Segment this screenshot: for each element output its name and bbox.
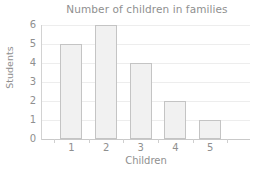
y-axis-tick-label: 1 — [10, 115, 36, 125]
bar — [130, 63, 152, 139]
chart-title: Number of children in families — [42, 3, 252, 15]
x-axis-tick-label: 2 — [94, 142, 118, 154]
x-axis-tick-mark — [227, 139, 228, 143]
x-axis-tick-mark — [158, 139, 159, 143]
x-axis-tick-mark — [54, 139, 55, 143]
x-axis-tick-label: 5 — [198, 142, 222, 154]
y-axis-tick-label: 5 — [10, 39, 36, 49]
y-axis-tick-label: 2 — [10, 96, 36, 106]
gridline — [42, 25, 250, 26]
bar — [95, 25, 117, 139]
y-axis-tick-label: 6 — [10, 20, 36, 30]
bar — [60, 44, 82, 139]
bar — [199, 120, 221, 139]
y-axis-tick-label: 3 — [10, 77, 36, 87]
bar — [164, 101, 186, 139]
x-axis-tick-mark — [123, 139, 124, 143]
x-axis-tick-label: 4 — [163, 142, 187, 154]
bar-chart: Number of children in families Students … — [0, 0, 260, 173]
y-axis-tick-label: 0 — [10, 134, 36, 144]
y-axis-line — [41, 25, 42, 140]
plot-area — [42, 25, 250, 139]
x-axis-tick-mark — [193, 139, 194, 143]
x-axis-tick-label: 3 — [129, 142, 153, 154]
x-axis-title: Children — [42, 155, 250, 166]
x-axis-tick-mark — [89, 139, 90, 143]
y-axis-tick-label: 4 — [10, 58, 36, 68]
x-axis-line — [42, 139, 250, 140]
x-axis-tick-label: 1 — [59, 142, 83, 154]
